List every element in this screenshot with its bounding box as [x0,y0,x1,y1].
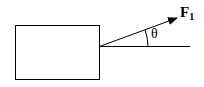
force-vector-f1 [100,18,178,47]
force-label-f1: F1 [180,5,194,22]
block [16,26,100,80]
force-diagram-canvas [0,0,204,87]
force-name: F [180,4,189,20]
angle-label-theta: θ [151,27,158,41]
angle-arc [145,30,148,47]
force-subscript: 1 [189,11,194,22]
